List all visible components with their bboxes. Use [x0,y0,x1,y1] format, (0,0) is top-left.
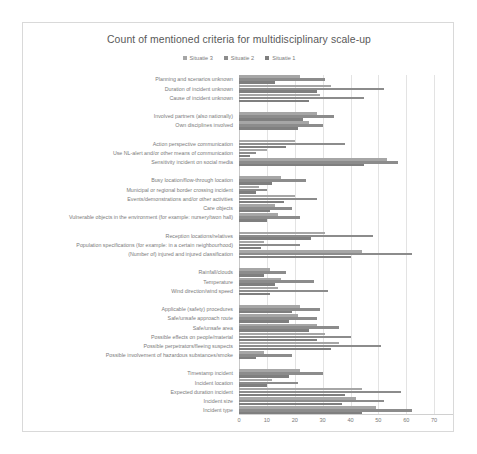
legend-entry-1[interactable]: Situatie 3 [183,55,213,61]
bar-group [239,341,454,350]
bar-group [239,139,454,148]
x-tick-label: 20 [292,417,298,423]
y-tick-label: Care objects [203,205,233,211]
legend-swatch-icon [183,56,187,60]
x-tick-label: 60 [403,417,409,423]
y-tick-label: Duration of incident unknown [165,86,233,92]
bar-s1[interactable] [239,219,267,222]
legend-entry-2[interactable]: Situatie 2 [224,55,254,61]
y-tick-label: Action perspective communication [153,141,233,147]
bar-group [239,213,454,222]
bar-group [239,158,454,167]
x-tick-label: 0 [237,417,240,423]
y-tick-label: Busy location/flow-through location [151,177,233,183]
chart-title: Count of mentioned criteria for multidis… [23,34,454,45]
chart-legend: Situatie 3Situatie 2Situatie 1 [23,55,454,61]
bar-group [239,84,454,93]
bar-group [239,323,454,332]
y-tick-label: Possible perpetrators/fleeing suspects [143,343,233,349]
y-tick-label: Possible involvement of hazardous substa… [106,352,233,358]
bar-group [239,397,454,406]
legend-label: Situatie 3 [190,55,213,61]
y-tick-label: Involved partners (also nationally) [154,113,233,119]
bar-group [239,231,454,240]
legend-label: Situatie 2 [231,55,254,61]
chart-card: Count of mentioned criteria for multidis… [22,22,454,432]
plot-area [239,75,454,415]
bar-s1[interactable] [239,357,256,360]
bar-group [239,240,454,249]
bar-group [239,176,454,185]
bar-group [239,387,454,396]
bar-group [239,286,454,295]
bar-group [239,204,454,213]
y-tick-label: Vulnerable objects in the environment (f… [69,214,233,220]
y-tick-label: Expected duration incident [171,389,233,395]
bar-group [239,378,454,387]
bar-group [239,121,454,130]
bar-group [239,93,454,102]
x-tick-label: 30 [320,417,326,423]
y-tick-label: Rainfall/clouds [199,269,233,275]
bar-s1[interactable] [239,100,309,103]
y-tick-label: Own disciplines involved [175,122,233,128]
y-tick-label: Timestamp incident [187,370,233,376]
bar-s1[interactable] [239,164,364,167]
y-tick-label: Possible effects on people/material [151,334,233,340]
y-tick-label: Reception locations/relatives [166,233,233,239]
y-tick-label: Incident type [203,407,233,413]
y-tick-label: Safe/unsafe approach route [168,315,233,321]
bar-group [239,277,454,286]
x-tick-label: 10 [264,417,270,423]
bar-s1[interactable] [239,127,298,130]
y-tick-label: Municipal or regional border crossing in… [126,187,233,193]
bar-group [239,194,454,203]
y-tick-label: Applicable (safety) procedures [161,306,233,312]
x-tick-label: 40 [347,417,353,423]
bar-group [239,250,454,259]
legend-swatch-icon [265,56,269,60]
y-tick-label: Cause of incident unknown [169,95,233,101]
y-tick-label: Population specifications (for example: … [76,242,233,248]
y-tick-label: (Number of) injured and injured classifi… [128,251,233,257]
legend-swatch-icon [224,56,228,60]
bar-group [239,268,454,277]
y-tick-label: Events/demonstrations and/or other activ… [127,196,233,202]
y-tick-label: Incident location [195,380,233,386]
bar-group [239,314,454,323]
x-axis-line [239,414,454,415]
bar-group [239,332,454,341]
y-tick-label: Planning and scenarios unknown [155,76,233,82]
x-tick-label: 70 [431,417,437,423]
bar-group [239,369,454,378]
y-tick-label: Sensitivity incident on social media [151,159,233,165]
y-tick-label: Wind direction/wind speed [171,288,233,294]
y-tick-label: Safe/unsafe area [193,325,233,331]
legend-entry-3[interactable]: Situatie 1 [265,55,295,61]
bar-group [239,305,454,314]
y-tick-label: Incident size [204,398,233,404]
bar-rows [239,75,454,415]
legend-label: Situatie 1 [272,55,295,61]
bar-group [239,351,454,360]
x-tick-label: 50 [375,417,381,423]
bar-group [239,75,454,84]
y-axis-labels: Planning and scenarios unknownDuration o… [23,75,236,415]
bar-group [239,185,454,194]
bar-s1[interactable] [239,256,351,259]
y-tick-label: Use NL-alert and/or other means of commu… [113,150,233,156]
bar-group [239,112,454,121]
x-axis-labels: 01020304050607080 [239,417,454,429]
bar-group [239,149,454,158]
y-tick-label: Temperature [203,279,233,285]
bar-s1[interactable] [239,293,270,296]
